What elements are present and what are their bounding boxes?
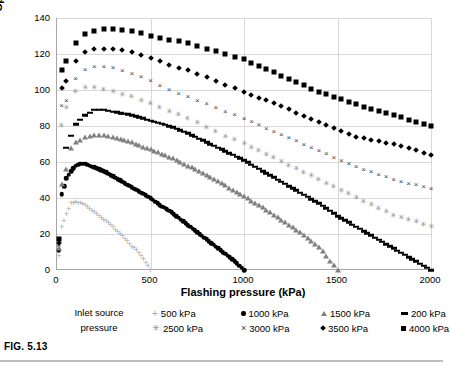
data-point — [141, 192, 146, 197]
data-point — [323, 253, 329, 258]
data-point — [222, 150, 228, 153]
data-point — [297, 191, 303, 194]
data-point — [278, 217, 284, 222]
data-point — [129, 114, 135, 117]
data-point — [327, 210, 333, 213]
data-point — [219, 181, 225, 186]
gridline-vertical — [431, 18, 432, 270]
legend-entry[interactable]: 200 kPa — [401, 306, 446, 320]
data-point — [286, 185, 292, 188]
data-point — [92, 46, 98, 52]
data-point — [219, 148, 225, 151]
data-point — [264, 98, 270, 104]
data-point — [77, 118, 83, 121]
legend-entry[interactable]: ×3000 kPa — [241, 321, 289, 335]
data-point — [56, 246, 62, 251]
legend-entry[interactable]: +500 kPa — [152, 306, 196, 320]
legend-entry[interactable]: 1500 kPa — [321, 306, 370, 320]
data-point — [140, 117, 146, 120]
data-point — [190, 226, 195, 231]
data-point — [271, 70, 276, 75]
data-point: ✳ — [128, 93, 135, 101]
x-axis-tick-label: 1000 — [223, 275, 263, 285]
data-point: ✳ — [119, 91, 126, 99]
data-point — [361, 135, 367, 141]
data-point — [226, 152, 232, 155]
data-point: + — [82, 201, 87, 210]
data-point — [64, 176, 69, 181]
data-point — [130, 185, 135, 190]
data-point: + — [101, 215, 106, 224]
data-point — [118, 136, 124, 141]
data-point — [414, 119, 419, 124]
legend-entry-label: 4000 kPa — [409, 323, 449, 334]
data-point — [214, 244, 219, 249]
data-point — [82, 114, 88, 117]
data-point: ✳ — [55, 243, 62, 251]
legend-entry-label: 2500 kPa — [163, 323, 203, 334]
data-point — [140, 144, 146, 149]
data-point — [417, 262, 423, 265]
data-point — [104, 170, 109, 175]
data-point: × — [369, 168, 374, 176]
data-point: ✳ — [375, 205, 382, 213]
data-point: ✳ — [323, 180, 330, 188]
figure-caption: FIG. 5.13 — [4, 341, 48, 352]
data-point: × — [57, 241, 62, 249]
data-point: ✳ — [398, 214, 405, 222]
data-point — [204, 75, 210, 81]
data-point: ✳ — [293, 165, 300, 173]
data-point — [256, 95, 262, 101]
data-point — [185, 132, 191, 135]
legend-entry[interactable]: ✳2500 kPa — [152, 321, 203, 335]
data-point — [267, 174, 273, 177]
legend-entry[interactable]: 1000 kPa — [241, 306, 289, 320]
plot-area: ++++++++++++++++++++++++++++++++++++++++… — [56, 18, 430, 270]
data-point — [346, 99, 351, 104]
data-point: + — [143, 258, 148, 267]
data-point — [324, 92, 329, 97]
legend-marker-icon: ✳ — [152, 322, 160, 335]
data-point — [170, 156, 176, 161]
data-point — [132, 186, 137, 191]
data-point — [99, 168, 104, 173]
data-point: + — [80, 200, 85, 209]
data-point: + — [71, 198, 76, 207]
data-point — [256, 168, 262, 171]
data-point — [391, 113, 396, 118]
legend-entry-label: 500 kPa — [161, 308, 196, 319]
data-point — [64, 78, 70, 84]
data-point — [102, 169, 107, 174]
data-point: + — [108, 221, 113, 230]
data-point: × — [361, 166, 366, 174]
data-point — [278, 181, 284, 184]
data-point — [166, 62, 172, 68]
data-point — [263, 172, 269, 175]
data-point — [249, 92, 255, 98]
data-point — [376, 138, 382, 144]
data-point — [188, 225, 193, 230]
data-point — [279, 103, 285, 109]
data-point: + — [96, 212, 101, 221]
data-point: ✳ — [338, 187, 345, 195]
data-point — [101, 109, 107, 112]
data-point — [235, 261, 240, 266]
legend-entry[interactable]: 3500 kPa — [321, 321, 368, 335]
data-point: ✳ — [203, 124, 210, 132]
data-point — [211, 176, 217, 181]
data-point — [376, 108, 381, 113]
data-point — [153, 199, 158, 204]
data-point: × — [316, 147, 321, 155]
data-point: × — [101, 63, 106, 71]
legend-entry[interactable]: 4000 kPa — [401, 321, 449, 335]
data-point — [357, 228, 363, 231]
data-point — [204, 172, 210, 177]
data-point — [176, 216, 181, 221]
data-point: × — [232, 111, 237, 119]
data-point — [361, 230, 367, 233]
x-axis-tick-label: 500 — [130, 275, 170, 285]
data-point: × — [339, 157, 344, 165]
data-point — [159, 151, 165, 156]
data-point — [301, 83, 306, 88]
data-point: × — [120, 67, 125, 75]
